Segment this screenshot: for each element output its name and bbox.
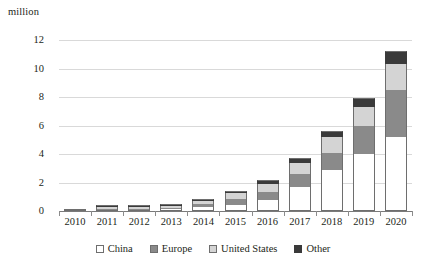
gridline <box>59 40 412 41</box>
legend-label: Europe <box>162 243 192 254</box>
y-axis-tick-label: 12 <box>0 35 44 45</box>
bar-2016[interactable] <box>257 180 279 211</box>
legend-label: United States <box>221 243 277 254</box>
legend-swatch-icon <box>209 245 217 253</box>
gridline <box>59 69 412 70</box>
bar-2020[interactable] <box>385 51 407 211</box>
bar-2015[interactable] <box>225 191 247 211</box>
chart-legend: ChinaEuropeUnited StatesOther <box>0 243 426 254</box>
bar-2018[interactable] <box>321 131 343 211</box>
stacked-bar-chart: million 024681012 2010201120122013201420… <box>0 0 426 269</box>
y-axis-tick-label: 8 <box>0 92 44 102</box>
bar-segment-other <box>385 51 407 64</box>
bar-segment-europe <box>353 126 375 155</box>
legend-item-other[interactable]: Other <box>294 243 330 254</box>
bar-segment-china <box>353 154 375 211</box>
bar-2013[interactable] <box>160 204 182 211</box>
plot-area <box>59 40 412 211</box>
y-axis-tick-label: 4 <box>0 149 44 159</box>
bar-segment-china <box>385 137 407 211</box>
legend-swatch-icon <box>150 245 158 253</box>
bar-segment-china <box>289 187 311 211</box>
legend-item-us[interactable]: United States <box>209 243 277 254</box>
bar-segment-us <box>353 107 375 126</box>
y-axis-tick-label: 6 <box>0 121 44 131</box>
bar-2019[interactable] <box>353 98 375 211</box>
bar-segment-europe <box>385 90 407 137</box>
bar-segment-china <box>257 200 279 211</box>
legend-item-europe[interactable]: Europe <box>150 243 192 254</box>
bar-segment-other <box>353 98 375 107</box>
bar-segment-us <box>289 163 311 174</box>
legend-label: China <box>108 243 133 254</box>
bar-segment-europe <box>321 153 343 170</box>
y-axis-tick-label: 10 <box>0 64 44 74</box>
bar-segment-europe <box>289 174 311 187</box>
legend-swatch-icon <box>96 245 104 253</box>
bar-segment-china <box>321 170 343 211</box>
x-axis-tick-label: 2020 <box>376 215 416 229</box>
y-axis-tick-label: 2 <box>0 178 44 188</box>
bar-segment-europe <box>257 192 279 201</box>
legend-swatch-icon <box>294 245 302 253</box>
legend-label: Other <box>306 243 330 254</box>
bar-segment-us <box>257 184 279 192</box>
bar-segment-us <box>321 137 343 153</box>
legend-item-china[interactable]: China <box>96 243 133 254</box>
bar-2014[interactable] <box>192 199 214 211</box>
x-axis-labels: 2010201120122013201420152016201720182019… <box>0 215 426 231</box>
bar-segment-us <box>385 64 407 90</box>
bar-2017[interactable] <box>289 158 311 211</box>
